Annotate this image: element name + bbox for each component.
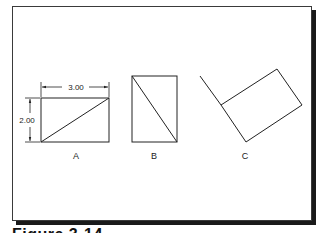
view-a-shape xyxy=(25,82,109,142)
figure-drawing: 3.00 2.00 A B C xyxy=(0,0,320,233)
view-b-shape xyxy=(132,76,177,142)
view-c-label: C xyxy=(242,151,249,161)
view-c-shape xyxy=(200,69,302,142)
view-b-label: B xyxy=(151,151,157,161)
view-a-label: A xyxy=(73,151,79,161)
height-dimension-label: 2.00 xyxy=(19,116,35,125)
width-dimension-label: 3.00 xyxy=(68,83,84,92)
figure-caption: Figure 3-14 xyxy=(12,226,103,233)
